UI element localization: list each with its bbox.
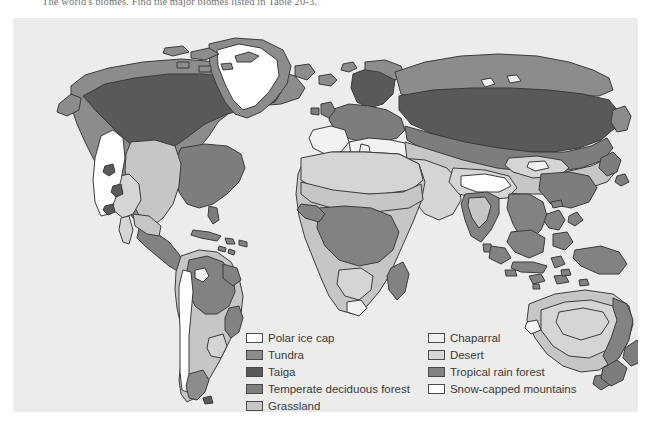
legend-item-chaparral[interactable]: Chaparral — [428, 330, 577, 345]
legend-label-desert: Desert — [450, 349, 484, 361]
legend-swatch-temperate-deciduous-forest — [246, 384, 263, 394]
legend-swatch-chaparral — [428, 333, 445, 343]
legend-label-temperate-deciduous-forest: Temperate deciduous forest — [268, 383, 410, 395]
legend-swatch-grassland — [246, 401, 263, 411]
legend-swatch-tundra — [246, 350, 263, 360]
map-legend: Polar ice cap Tundra Taiga Temperate dec… — [246, 330, 536, 413]
legend-item-tundra[interactable]: Tundra — [246, 347, 410, 362]
legend-item-polar-ice-cap[interactable]: Polar ice cap — [246, 330, 410, 345]
legend-column-right: Chaparral Desert Tropical rain forest Sn… — [428, 330, 577, 413]
legend-swatch-tropical-rain-forest — [428, 367, 445, 377]
legend-swatch-desert — [428, 350, 445, 360]
legend-label-chaparral: Chaparral — [450, 332, 501, 344]
legend-item-snow-capped-mountains[interactable]: Snow-capped mountains — [428, 381, 577, 396]
legend-item-temperate-deciduous-forest[interactable]: Temperate deciduous forest — [246, 381, 410, 396]
legend-label-grassland: Grassland — [268, 400, 320, 412]
legend-swatch-polar-ice-cap — [246, 333, 263, 343]
legend-item-tropical-rain-forest[interactable]: Tropical rain forest — [428, 364, 577, 379]
legend-item-taiga[interactable]: Taiga — [246, 364, 410, 379]
figure-caption: The world's biomes. Find the major biome… — [42, 0, 602, 7]
legend-swatch-taiga — [246, 367, 263, 377]
legend-label-snow-capped-mountains: Snow-capped mountains — [450, 383, 577, 395]
legend-label-polar-ice-cap: Polar ice cap — [268, 332, 334, 344]
legend-swatch-snow-capped-mountains — [428, 384, 445, 394]
legend-label-taiga: Taiga — [268, 366, 296, 378]
legend-column-left: Polar ice cap Tundra Taiga Temperate dec… — [246, 330, 410, 413]
legend-label-tundra: Tundra — [268, 349, 304, 361]
legend-item-grassland[interactable]: Grassland — [246, 398, 410, 413]
legend-label-tropical-rain-forest: Tropical rain forest — [450, 366, 545, 378]
legend-item-desert[interactable]: Desert — [428, 347, 577, 362]
